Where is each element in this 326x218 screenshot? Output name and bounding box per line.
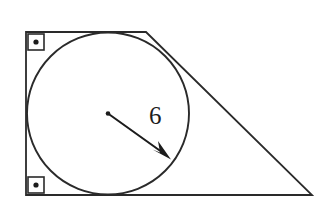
geometry-figure: 6 <box>0 0 326 218</box>
right-angle-dot-bottom-left <box>33 182 38 187</box>
radius-label: 6 <box>149 102 162 129</box>
geometry-canvas: 6 <box>0 0 326 218</box>
right-angle-dot-top-left <box>33 39 38 44</box>
